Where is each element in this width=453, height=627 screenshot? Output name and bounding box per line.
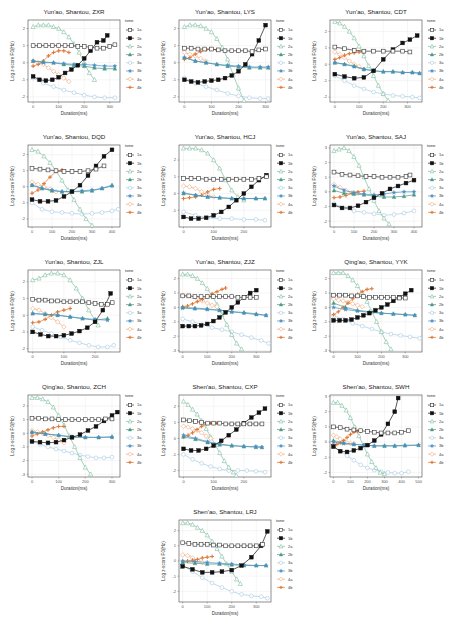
x-axis-label: Duration(ms) bbox=[61, 361, 88, 366]
x-tick-label: 0 bbox=[182, 229, 185, 234]
x-tick-label: 300 bbox=[402, 354, 409, 359]
legend-item-4b: 4b bbox=[428, 335, 443, 340]
legend-item-4b: 4b bbox=[277, 585, 292, 590]
legend-item-4a: 4a bbox=[277, 452, 293, 457]
svg-text:3a: 3a bbox=[288, 60, 293, 65]
legend-item-4a: 4a bbox=[126, 202, 142, 207]
svg-text:1a: 1a bbox=[439, 402, 444, 407]
svg-text:4a: 4a bbox=[288, 327, 293, 332]
y-tick-label: 0 bbox=[325, 189, 328, 194]
svg-text:4a: 4a bbox=[137, 327, 142, 332]
chart-title: Shen'ao, Shantou, LRJ bbox=[193, 508, 256, 515]
legend-item-1a: 1a bbox=[428, 277, 444, 282]
legend-item-1a: 1a bbox=[277, 27, 293, 32]
legend-item-1a: 1a bbox=[126, 27, 142, 32]
chart-svg: Yun'ao, Shantou, SAJ-2-10123010020030040… bbox=[302, 125, 453, 250]
svg-text:2b: 2b bbox=[288, 427, 292, 432]
svg-text:2b: 2b bbox=[137, 52, 141, 57]
svg-text:1b: 1b bbox=[288, 286, 292, 291]
legend-item-2b: 2b bbox=[277, 552, 292, 557]
x-tick-label: 200 bbox=[69, 229, 76, 234]
legend-item-3b: 3b bbox=[126, 318, 141, 323]
legend-item-2b: 2b bbox=[428, 427, 443, 432]
legend: tone1a1b2a2b3a3b4a4b bbox=[125, 268, 142, 340]
legend-item-1b: 1b bbox=[277, 536, 292, 541]
legend: tone1a1b2a2b3a3b4a4b bbox=[276, 18, 293, 90]
legend-title: tone bbox=[427, 143, 436, 148]
svg-text:2b: 2b bbox=[288, 177, 292, 182]
legend: tone1a1b2a2b3a3b4a4b bbox=[427, 143, 444, 215]
x-tick-label: 300 bbox=[89, 229, 96, 234]
legend: tone1a1b2a2b3a3b4a4b bbox=[276, 143, 293, 215]
y-axis-label: Log z-score F0(Hz) bbox=[312, 41, 317, 81]
legend-item-4a: 4a bbox=[428, 452, 444, 457]
y-axis-label: Log z-score F0(Hz) bbox=[312, 291, 317, 331]
y-tick-label: -2 bbox=[21, 458, 25, 463]
chart-title: Yun'ao, Shantou, HCJ bbox=[195, 133, 256, 140]
legend: tone1a1b2a2b3a3b4a4b bbox=[125, 393, 142, 465]
legend-title: tone bbox=[427, 18, 436, 23]
svg-text:1b: 1b bbox=[439, 286, 443, 291]
y-tick-label: 1 bbox=[174, 174, 177, 179]
y-tick-label: 0 bbox=[23, 184, 26, 189]
svg-text:1a: 1a bbox=[288, 402, 293, 407]
svg-text:1b: 1b bbox=[137, 286, 141, 291]
y-tick-label: 0 bbox=[23, 313, 26, 318]
x-tick-label: 0 bbox=[332, 354, 335, 359]
x-tick-label: 0 bbox=[182, 354, 185, 359]
legend-item-2b: 2b bbox=[277, 302, 292, 307]
x-axis-label: Duration(ms) bbox=[363, 486, 390, 491]
legend-item-4b: 4b bbox=[277, 85, 292, 90]
svg-text:1a: 1a bbox=[288, 152, 293, 157]
chart-panel: Yun'ao, Shantou, DQD-2-10120100200300400… bbox=[0, 125, 151, 250]
x-tick-label: 100 bbox=[49, 229, 56, 234]
y-axis-label: Log z-score F0(Hz) bbox=[10, 291, 15, 331]
legend: tone1a1b2a2b3a3b4a4b bbox=[276, 518, 293, 590]
svg-text:4b: 4b bbox=[288, 210, 292, 215]
x-tick-label: 400 bbox=[411, 229, 418, 234]
legend-item-1a: 1a bbox=[277, 402, 293, 407]
chart-panel: Shen'ao, Shantou, CXP-2-10120100200Durat… bbox=[151, 375, 302, 500]
y-axis-label: Log z-score F0(Hz) bbox=[10, 416, 15, 456]
legend-item-1a: 1a bbox=[428, 27, 444, 32]
svg-text:3b: 3b bbox=[137, 68, 141, 73]
legend-item-4b: 4b bbox=[126, 210, 141, 215]
svg-text:1b: 1b bbox=[288, 411, 292, 416]
chart-svg: Yun'ao, Shantou, CDT-2-10120100200300Dur… bbox=[302, 0, 453, 125]
legend: tone1a1b2a2b3a3b4a4b bbox=[125, 143, 142, 215]
y-tick-label: -1 bbox=[172, 319, 176, 324]
legend-item-1a: 1a bbox=[277, 152, 293, 157]
svg-text:3a: 3a bbox=[288, 310, 293, 315]
y-tick-label: -1 bbox=[172, 77, 176, 82]
x-tick-label: 300 bbox=[262, 104, 269, 109]
y-tick-label: 1 bbox=[325, 290, 328, 295]
legend-item-3a: 3a bbox=[277, 185, 293, 190]
svg-text:4a: 4a bbox=[288, 77, 293, 82]
svg-text:1a: 1a bbox=[288, 527, 293, 532]
x-tick-label: 100 bbox=[55, 104, 62, 109]
legend-item-3b: 3b bbox=[277, 318, 292, 323]
svg-text:2a: 2a bbox=[288, 419, 293, 424]
legend-item-4a: 4a bbox=[428, 202, 444, 207]
svg-text:2b: 2b bbox=[439, 52, 443, 57]
legend-item-2a: 2a bbox=[126, 44, 142, 49]
y-tick-label: 3 bbox=[325, 394, 328, 399]
legend-item-2b: 2b bbox=[277, 177, 292, 182]
svg-text:4a: 4a bbox=[288, 452, 293, 457]
y-tick-label: 0 bbox=[23, 431, 26, 436]
svg-text:3b: 3b bbox=[288, 568, 292, 573]
chart-panel: Yun'ao, Shantou, HCJ-10120100200Duration… bbox=[151, 125, 302, 250]
svg-text:1b: 1b bbox=[288, 536, 292, 541]
svg-text:3b: 3b bbox=[288, 68, 292, 73]
svg-text:2a: 2a bbox=[439, 294, 444, 299]
svg-text:3b: 3b bbox=[288, 193, 292, 198]
svg-text:4a: 4a bbox=[439, 77, 444, 82]
chart-title: Shen'ao, Shantou, CXP bbox=[192, 383, 257, 390]
y-tick-label: -1 bbox=[323, 319, 327, 324]
svg-text:4a: 4a bbox=[439, 327, 444, 332]
svg-text:3a: 3a bbox=[288, 435, 293, 440]
y-tick-label: -1 bbox=[21, 77, 25, 82]
chart-panel: Shen'ao, Shantou, SWH-2-1012301002003004… bbox=[302, 375, 453, 500]
chart-panel: Yun'ao, Shantou, SAJ-2-10123010020030040… bbox=[302, 125, 453, 250]
chart-title: Yun'ao, Shantou, DQD bbox=[43, 133, 106, 140]
